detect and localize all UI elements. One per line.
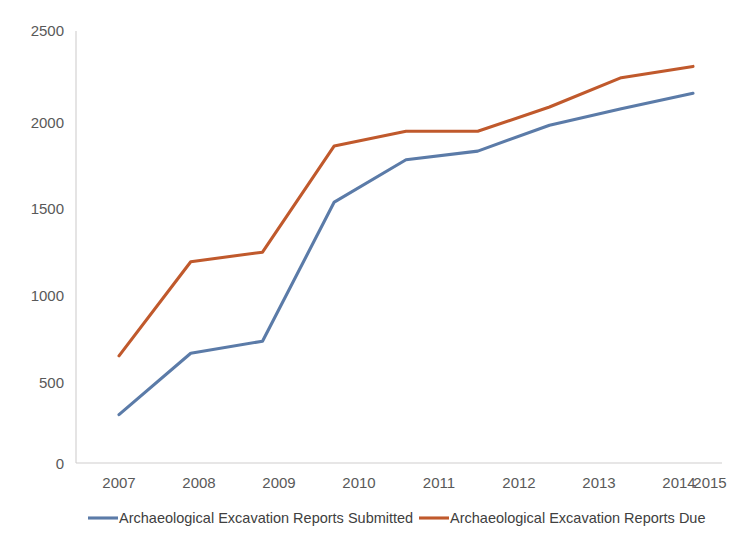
x-tick-label: 2010 <box>342 474 375 491</box>
x-tick-label: 2008 <box>182 474 215 491</box>
x-tick-label: 2015 <box>693 474 726 491</box>
x-tick-label: 2013 <box>582 474 615 491</box>
y-tick-label: 0 <box>56 455 64 472</box>
chart-background <box>0 0 744 549</box>
x-tick-label: 2009 <box>262 474 295 491</box>
chart-legend: Archaeological Excavation Reports Submit… <box>88 510 706 526</box>
y-tick-label: 2000 <box>31 114 64 131</box>
x-tick-label: 2011 <box>423 474 455 491</box>
y-tick-label: 1000 <box>31 287 64 304</box>
y-tick-label: 500 <box>39 374 64 391</box>
y-tick-label: 2500 <box>31 22 64 39</box>
x-tick-label: 2014 <box>662 474 695 491</box>
x-tick-label: 2012 <box>502 474 535 491</box>
chart-container: 2500 2000 1500 1000 500 0 2007 2008 2009… <box>0 0 744 549</box>
legend-label-submitted: Archaeological Excavation Reports Submit… <box>119 510 413 526</box>
legend-label-due: Archaeological Excavation Reports Due <box>450 510 706 526</box>
line-chart: 2500 2000 1500 1000 500 0 2007 2008 2009… <box>0 0 744 549</box>
x-tick-label: 2007 <box>102 474 135 491</box>
y-tick-label: 1500 <box>31 200 64 217</box>
